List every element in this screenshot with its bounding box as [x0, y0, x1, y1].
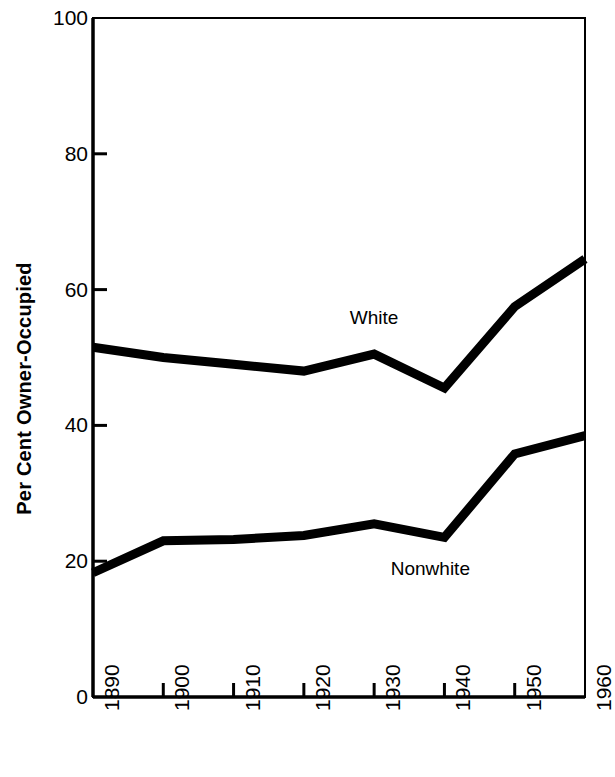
plot-area — [0, 0, 615, 777]
y-tick-20: 20 — [42, 550, 88, 571]
data-series — [93, 259, 585, 573]
y-tick-100: 100 — [42, 7, 88, 28]
y-tick-40: 40 — [42, 414, 88, 435]
y-tick-60: 60 — [42, 279, 88, 300]
x-tick-1920: 1920 — [312, 664, 333, 711]
x-tick-1930: 1930 — [382, 664, 403, 711]
x-tick-1940: 1940 — [452, 664, 473, 711]
x-tick-1890: 1890 — [101, 664, 122, 711]
y-tick-0: 0 — [42, 686, 88, 707]
series-line-nonwhite — [93, 436, 585, 573]
x-tick-1960: 1960 — [593, 664, 614, 711]
x-tick-1910: 1910 — [242, 664, 263, 711]
series-label-white: White — [350, 307, 399, 326]
series-label-nonwhite: Nonwhite — [391, 558, 470, 577]
y-tick-80: 80 — [42, 143, 88, 164]
series-line-white — [93, 259, 585, 388]
chart-root: Per Cent Owner-Occupied 020406080100 189… — [0, 0, 615, 777]
x-tick-1950: 1950 — [523, 664, 544, 711]
x-tick-1900: 1900 — [171, 664, 192, 711]
